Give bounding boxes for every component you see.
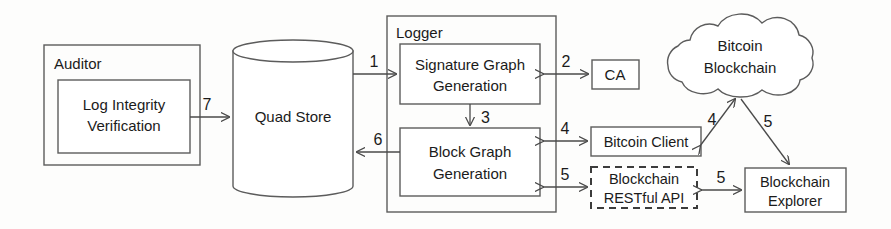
- blockchain-restful-api-label-line2: RESTful API: [604, 190, 685, 206]
- logger-label: Logger: [396, 24, 443, 41]
- blockchain-explorer-label-line2: Explorer: [768, 193, 822, 209]
- edge-3: 3: [470, 104, 490, 126]
- signature-graph-generation-label-line1: Signature Graph: [415, 56, 525, 73]
- edge-1-label: 1: [370, 53, 379, 70]
- quad-store-top: [233, 40, 353, 62]
- quad-store-label: Quad Store: [255, 108, 332, 125]
- bitcoin-client-label: Bitcoin Client: [604, 134, 689, 150]
- edge-4-cloud-line: [700, 99, 735, 146]
- edge-4-logger: 4: [543, 120, 587, 141]
- edge-5-api: 5: [701, 169, 741, 190]
- edge-1: 1: [353, 53, 396, 74]
- ca-node[interactable]: CA: [592, 60, 639, 89]
- bitcoin-client-node[interactable]: Bitcoin Client: [591, 127, 701, 156]
- edge-6-label: 6: [374, 131, 383, 148]
- bitcoin-blockchain-label-line2: Blockchain: [704, 59, 777, 76]
- block-graph-generation-label-line2: Generation: [433, 165, 507, 182]
- edge-2: 2: [543, 53, 588, 74]
- block-graph-generation-label-line1: Block Graph: [429, 143, 512, 160]
- edge-6: 6: [357, 131, 400, 152]
- edge-7-label: 7: [203, 96, 212, 113]
- quad-store-node[interactable]: Quad Store: [233, 40, 353, 197]
- edge-2-label: 2: [562, 53, 571, 70]
- edge-5-api-label: 5: [717, 169, 726, 186]
- ca-label: CA: [605, 66, 626, 83]
- group-auditor: Auditor Log Integrity Verification: [44, 45, 200, 165]
- edge-5-cloud-label: 5: [764, 113, 773, 130]
- group-logger: Logger Signature Graph Generation Block …: [387, 16, 556, 212]
- log-integrity-verification-label-line1: Log Integrity: [83, 96, 166, 113]
- auditor-label: Auditor: [54, 55, 102, 72]
- block-graph-generation-box[interactable]: [400, 128, 540, 196]
- signature-graph-generation-label-line2: Generation: [433, 77, 507, 94]
- edge-5-cloud-line: [741, 99, 789, 164]
- edge-4-logger-label: 4: [561, 120, 570, 137]
- edge-4-cloud-label: 4: [708, 111, 717, 128]
- edge-4-cloud: 4: [700, 99, 735, 146]
- log-integrity-verification-label-line2: Verification: [87, 117, 160, 134]
- edge-5-logger-label: 5: [561, 166, 570, 183]
- diagram-canvas: Auditor Log Integrity Verification Quad …: [0, 0, 891, 229]
- edge-7: 7: [190, 96, 229, 117]
- signature-graph-generation-box[interactable]: [400, 44, 540, 104]
- blockchain-explorer-label-line1: Blockchain: [760, 174, 830, 190]
- architecture-diagram: Auditor Log Integrity Verification Quad …: [0, 0, 891, 229]
- edge-5-cloud: 5: [741, 99, 789, 164]
- bitcoin-blockchain-node[interactable]: Bitcoin Blockchain: [668, 14, 813, 97]
- bitcoin-blockchain-cloud-shape: [668, 14, 813, 97]
- edge-5-logger: 5: [543, 166, 587, 187]
- bitcoin-blockchain-label-line1: Bitcoin: [717, 37, 762, 54]
- edge-3-label: 3: [481, 109, 490, 126]
- blockchain-explorer-node[interactable]: Blockchain Explorer: [745, 168, 846, 212]
- blockchain-restful-api-node[interactable]: Blockchain RESTful API: [591, 167, 697, 208]
- blockchain-restful-api-label-line1: Blockchain: [609, 171, 679, 187]
